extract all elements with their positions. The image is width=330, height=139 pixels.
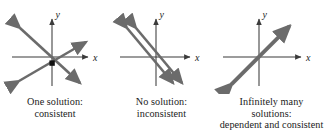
graph-infinitely-many-solutions-svg: x y bbox=[213, 4, 330, 94]
y-axis-label: y bbox=[55, 9, 61, 20]
caption-line: No solution: bbox=[110, 96, 213, 108]
graph-one-solution: x y bbox=[0, 4, 110, 94]
systems-of-equations-figure: x y One solution: consistent bbox=[0, 0, 330, 139]
caption-line: Infinitely many bbox=[213, 96, 330, 108]
caption-one-solution: One solution: consistent bbox=[0, 96, 110, 119]
caption-no-solution: No solution: inconsistent bbox=[110, 96, 213, 119]
graph-no-solution-svg: x y bbox=[110, 4, 213, 94]
equation-line-2 bbox=[232, 27, 290, 85]
x-axis-label: x bbox=[194, 52, 200, 63]
panel-infinitely-many-solutions: x y Infinitely many solutions: dependent… bbox=[213, 0, 330, 139]
caption-line: dependent and consistent bbox=[213, 119, 330, 131]
y-axis-label: y bbox=[262, 9, 268, 20]
y-axis-label: y bbox=[159, 9, 165, 20]
caption-infinitely-many-solutions: Infinitely many solutions: dependent and… bbox=[213, 96, 330, 131]
caption-line: consistent bbox=[0, 108, 110, 120]
graph-one-solution-svg: x y bbox=[0, 4, 110, 94]
graph-no-solution: x y bbox=[110, 4, 213, 94]
caption-line: inconsistent bbox=[110, 108, 213, 120]
x-axis-label: x bbox=[305, 52, 311, 63]
caption-line: One solution: bbox=[0, 96, 110, 108]
panel-one-solution: x y One solution: consistent bbox=[0, 0, 110, 139]
caption-line: solutions: bbox=[213, 108, 330, 120]
equation-line-1 bbox=[127, 28, 173, 83]
intersection-point bbox=[49, 60, 54, 65]
graph-infinitely-many-solutions: x y bbox=[213, 4, 330, 94]
system-lines-infinitely-many-solutions bbox=[231, 26, 290, 85]
panel-no-solution: x y No solution: inconsistent bbox=[110, 0, 213, 139]
axes-one-solution bbox=[12, 19, 88, 86]
x-axis-label: x bbox=[92, 52, 98, 63]
equation-line-2 bbox=[136, 28, 182, 83]
system-lines-no-solution bbox=[127, 28, 182, 83]
